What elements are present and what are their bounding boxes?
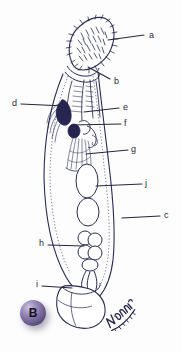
label-e-leader-line	[84, 108, 119, 112]
label-c-leader-line	[122, 216, 160, 218]
panel-letter-badge: B	[20, 300, 46, 326]
label-g: g	[131, 145, 136, 154]
label-c: c	[164, 211, 169, 220]
panel-letter-text: B	[29, 307, 38, 319]
label-j-leader-line	[96, 184, 142, 186]
figure-panel: abdefgjchi B Nisreen	[0, 0, 181, 352]
copulatory-bursa	[57, 283, 106, 328]
label-j: j	[145, 179, 147, 188]
label-d: d	[12, 99, 17, 108]
anatomical-diagram	[0, 0, 181, 352]
handwritten-signature: Nisreen	[101, 297, 141, 331]
gonad-chain	[76, 164, 102, 271]
label-b: b	[114, 77, 119, 86]
proboscis	[66, 15, 118, 73]
label-e: e	[123, 103, 128, 112]
label-f: f	[124, 119, 127, 128]
label-f-leader-line	[72, 124, 121, 125]
label-a: a	[149, 31, 154, 40]
label-h: h	[39, 239, 44, 248]
label-i: i	[36, 280, 38, 289]
